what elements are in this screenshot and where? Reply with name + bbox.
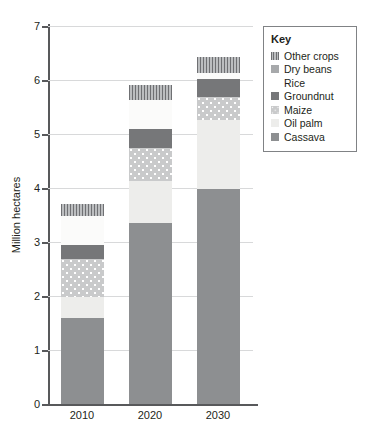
legend-swatch-oil-palm <box>271 119 279 127</box>
y-tick-label-5: 5 <box>34 128 40 140</box>
tickmark-1 <box>42 350 48 352</box>
legend: Key Other crops Dry beans Rice Groundnut… <box>263 26 357 152</box>
tickmark-4 <box>42 188 48 190</box>
legend-swatch-cassava <box>271 133 279 141</box>
x-tick-label-2010: 2010 <box>52 409 112 421</box>
tickmark-5 <box>42 134 48 136</box>
segment-2020-groundnut <box>129 129 172 147</box>
x-tick-label-2020: 2020 <box>120 409 180 421</box>
legend-item-other-crops: Other crops <box>271 49 350 63</box>
legend-swatch-maize <box>271 106 279 114</box>
y-tick-label-0: 0 <box>34 398 40 410</box>
legend-item-dry-beans: Dry beans <box>271 63 350 77</box>
tickmark-6 <box>42 80 48 82</box>
segment-2030-groundnut <box>197 79 240 97</box>
gridline-7 <box>48 26 253 27</box>
bar-2020 <box>129 85 172 404</box>
y-axis-title-holder: Million hectares <box>18 26 32 404</box>
legend-label-cassava: Cassava <box>284 132 325 143</box>
legend-title: Key <box>271 33 350 45</box>
segment-2010-maize <box>61 259 104 297</box>
y-axis-title: Million hectares <box>10 177 22 253</box>
segment-2020-rice <box>129 100 172 129</box>
segment-2030-maize <box>197 97 240 120</box>
legend-item-groundnut: Groundnut <box>271 90 350 104</box>
legend-swatch-rice <box>271 79 279 87</box>
x-tick-label-2030: 2030 <box>188 409 248 421</box>
legend-label-other-crops: Other crops <box>284 51 339 62</box>
segment-2030-cassava <box>197 189 240 404</box>
tickmark-0 <box>42 404 48 406</box>
segment-2020-other-crops <box>129 85 172 100</box>
legend-item-rice: Rice <box>271 76 350 90</box>
legend-item-cassava: Cassava <box>271 130 350 144</box>
stacked-bar-chart: Million hectares 7 6 5 4 3 2 1 0 <box>0 0 367 435</box>
tickmark-2 <box>42 296 48 298</box>
bar-2030 <box>197 57 240 404</box>
segment-2010-rice <box>61 216 104 245</box>
segment-2010-oil-palm <box>61 297 104 318</box>
bar-2010 <box>61 204 104 404</box>
legend-swatch-groundnut <box>271 92 279 100</box>
legend-label-groundnut: Groundnut <box>284 91 334 102</box>
legend-label-rice: Rice <box>284 78 305 89</box>
legend-swatch-dry-beans <box>271 65 279 73</box>
plot-area <box>48 26 253 404</box>
legend-item-maize: Maize <box>271 103 350 117</box>
legend-label-maize: Maize <box>284 105 312 116</box>
segment-2010-other-crops <box>61 204 104 216</box>
y-tick-label-3: 3 <box>34 236 40 248</box>
segment-2020-cassava <box>129 223 172 404</box>
legend-item-oil-palm: Oil palm <box>271 117 350 131</box>
x-axis-line <box>48 404 258 406</box>
segment-2010-cassava <box>61 318 104 404</box>
legend-label-dry-beans: Dry beans <box>284 64 332 75</box>
segment-2020-maize <box>129 148 172 182</box>
segment-2020-oil-palm <box>129 181 172 223</box>
tickmark-7 <box>42 26 48 28</box>
tickmark-3 <box>42 242 48 244</box>
legend-label-oil-palm: Oil palm <box>284 118 323 129</box>
y-tick-label-1: 1 <box>34 344 40 356</box>
legend-swatch-other-crops <box>271 52 279 60</box>
segment-2030-oil-palm <box>197 120 240 189</box>
segment-2030-rice <box>197 73 240 80</box>
y-tick-label-7: 7 <box>34 20 40 32</box>
segment-2010-groundnut <box>61 245 104 260</box>
y-tick-label-2: 2 <box>34 290 40 302</box>
y-tick-label-6: 6 <box>34 74 40 86</box>
segment-2030-other-crops <box>197 57 240 72</box>
y-tick-label-4: 4 <box>34 182 40 194</box>
